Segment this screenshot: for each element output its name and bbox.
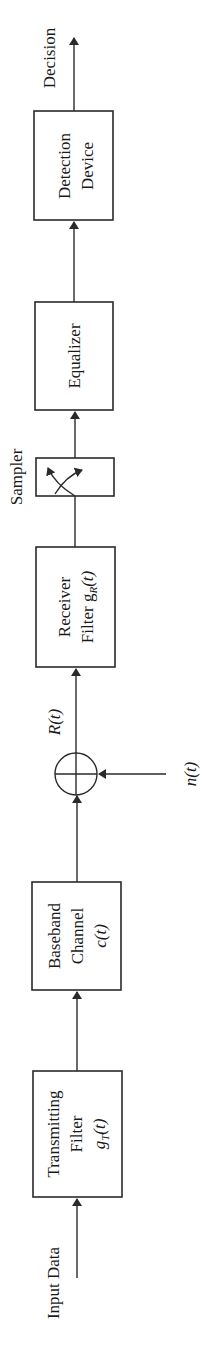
decision-label: Decision (40, 27, 59, 88)
equalizer-label: Equalizer (65, 323, 84, 388)
detection-device-line2: Device (78, 142, 97, 190)
receiver-filter-line1: Receiver (55, 576, 74, 637)
baseband-channel-line2: Channel (68, 907, 87, 964)
baseband-channel-line3: c(t) (91, 924, 110, 948)
received-signal-label: R(t) (45, 708, 64, 736)
adder-summing-junction (55, 753, 97, 795)
sampler-label: Sampler (7, 448, 26, 505)
input-data-label: Input Data (44, 1246, 63, 1319)
baseband-channel-block: Baseband Channel c(t) (32, 882, 121, 990)
detection-device-block: Detection Device (34, 111, 113, 220)
noise-label: n(t) (181, 761, 200, 786)
transmitting-filter-line1: Transmitting (44, 1090, 63, 1178)
detection-device-line1: Detection (55, 132, 74, 199)
block-diagram: Input Data Transmitting Filter gT(t) Bas… (0, 0, 204, 1357)
transmitting-filter-line2: Filter (67, 1115, 86, 1152)
transmitting-filter-line3: gT(t) (90, 1118, 111, 1149)
transmitting-filter-block: Transmitting Filter gT(t) (33, 1071, 122, 1197)
receiver-filter-block: Receiver Filter gR(t) (36, 547, 115, 667)
sampler-block (36, 458, 114, 496)
receiver-filter-line2: Filter gR(t) (78, 570, 99, 643)
baseband-channel-line1: Baseband (45, 902, 64, 969)
equalizer-block: Equalizer (35, 302, 113, 410)
